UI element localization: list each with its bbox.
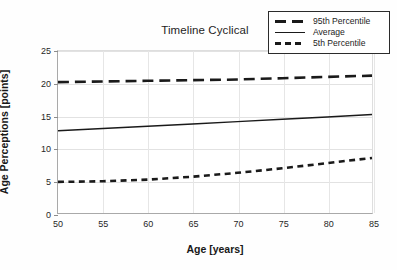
legend-item-95th-percentile: 95th Percentile bbox=[274, 16, 384, 27]
legend-swatch-short-dashed-icon bbox=[274, 38, 308, 49]
y-tick-label: 15 bbox=[41, 112, 51, 122]
y-tick-label: 0 bbox=[46, 210, 51, 220]
x-tick-label: 75 bbox=[279, 219, 289, 229]
x-tick-label: 70 bbox=[234, 219, 244, 229]
y-tick-label: 10 bbox=[41, 144, 51, 154]
legend-item-5th-percentile: 5th Percentile bbox=[274, 38, 384, 49]
x-tick-label: 55 bbox=[98, 219, 108, 229]
series-line bbox=[58, 115, 372, 131]
chart-title: Timeline Cyclical bbox=[140, 24, 270, 36]
plot-area: 0510152025 5055606570758085 bbox=[57, 50, 373, 214]
y-tick-label: 25 bbox=[41, 46, 51, 56]
x-tick-label: 85 bbox=[369, 219, 379, 229]
x-tick-label: 80 bbox=[324, 219, 334, 229]
series-line bbox=[58, 158, 372, 182]
legend-label: 95th Percentile bbox=[313, 16, 370, 27]
x-tick-label: 60 bbox=[143, 219, 153, 229]
chart-container: Timeline Cyclical 95th Percentile Averag… bbox=[0, 0, 397, 270]
x-tick-label: 65 bbox=[188, 219, 198, 229]
legend-label: Average bbox=[313, 27, 345, 38]
gridline-vertical bbox=[374, 51, 375, 213]
y-tick-label: 5 bbox=[46, 177, 51, 187]
legend-swatch-solid-icon bbox=[274, 27, 308, 38]
legend-item-average: Average bbox=[274, 27, 384, 38]
y-tick-mark bbox=[54, 215, 58, 216]
series-line bbox=[58, 76, 372, 82]
legend-swatch-long-dashed-icon bbox=[274, 16, 308, 27]
chart-legend: 95th Percentile Average 5th Percentile bbox=[268, 11, 390, 54]
series-layer bbox=[58, 51, 372, 213]
y-tick-label: 20 bbox=[41, 79, 51, 89]
x-axis-label: Age [years] bbox=[57, 243, 373, 255]
y-axis-label: Age Perceptions [points] bbox=[0, 70, 10, 194]
x-tick-label: 50 bbox=[53, 219, 63, 229]
legend-label: 5th Percentile bbox=[313, 38, 366, 49]
